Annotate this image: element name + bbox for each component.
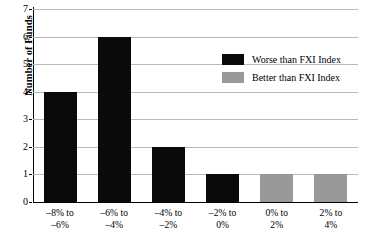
y-tick-mark: [29, 174, 32, 175]
y-tick-label: 5: [4, 59, 28, 69]
bar: [44, 92, 77, 202]
bar: [260, 174, 293, 202]
y-tick-mark: [29, 147, 32, 148]
y-tick-mark: [29, 64, 32, 65]
bar: [152, 147, 185, 202]
legend-item-worse: Worse than FXI Index: [222, 52, 341, 67]
gridline: [33, 202, 358, 203]
y-tick-mark: [29, 37, 32, 38]
y-tick-label: 6: [4, 32, 28, 42]
y-tick-label: 0: [4, 197, 28, 207]
gridline: [33, 37, 358, 38]
plot-area: [33, 9, 358, 202]
legend-item-better: Better than FXI Index: [222, 70, 341, 85]
chart-legend: Worse than FXI Index Better than FXI Ind…: [222, 52, 341, 88]
y-tick-label: 7: [4, 4, 28, 14]
y-tick-mark: [29, 9, 32, 10]
legend-label-better: Better than FXI Index: [252, 72, 340, 83]
gridline: [33, 147, 358, 148]
y-tick-label: 2: [4, 142, 28, 152]
legend-swatch-worse-icon: [222, 54, 244, 65]
gridline: [33, 92, 358, 93]
y-tick-mark: [29, 119, 32, 120]
gridline: [33, 9, 358, 10]
y-tick-mark: [29, 92, 32, 93]
bar: [206, 174, 239, 202]
y-tick-label: 3: [4, 114, 28, 124]
legend-label-worse: Worse than FXI Index: [252, 54, 341, 65]
bar: [314, 174, 347, 202]
x-tick-label: 2% to4%: [296, 207, 366, 230]
bar: [98, 37, 131, 202]
y-tick-label: 1: [4, 169, 28, 179]
gridline: [33, 119, 358, 120]
bar-chart: Number of Funds 01234567 –8% to–6%–6% to…: [0, 0, 368, 252]
legend-swatch-better-icon: [222, 72, 244, 83]
y-tick-label: 4: [4, 87, 28, 97]
gridline: [33, 174, 358, 175]
y-tick-mark: [29, 202, 32, 203]
